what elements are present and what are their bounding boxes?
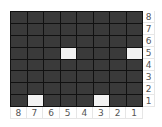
row-labels: 87654321 <box>143 11 155 107</box>
board-cell[interactable] <box>11 71 27 82</box>
board-cell[interactable] <box>11 48 27 59</box>
board-cell[interactable] <box>44 36 60 47</box>
board-cell[interactable] <box>94 71 110 82</box>
board-cell[interactable] <box>94 36 110 47</box>
board-cell[interactable] <box>110 48 126 59</box>
board-cell[interactable] <box>44 95 60 106</box>
board-cell[interactable] <box>44 24 60 35</box>
board-cell[interactable] <box>94 48 110 59</box>
board-cell[interactable] <box>44 12 60 23</box>
board-cell[interactable] <box>127 48 143 59</box>
row-label: 1 <box>143 95 155 107</box>
board-cell[interactable] <box>61 48 77 59</box>
board-cell[interactable] <box>94 60 110 71</box>
board-cell[interactable] <box>44 71 60 82</box>
column-label: 6 <box>43 107 60 119</box>
board-cell[interactable] <box>11 95 27 106</box>
board-cell[interactable] <box>77 36 93 47</box>
board-cell[interactable] <box>127 83 143 94</box>
column-label: 3 <box>93 107 110 119</box>
board-cell[interactable] <box>28 95 44 106</box>
board-cell[interactable] <box>61 60 77 71</box>
board-cell[interactable] <box>77 48 93 59</box>
game-board <box>10 11 143 107</box>
row-label: 7 <box>143 23 155 35</box>
board-cell[interactable] <box>28 83 44 94</box>
board-cell[interactable] <box>61 71 77 82</box>
board-cell[interactable] <box>94 95 110 106</box>
board-cell[interactable] <box>127 24 143 35</box>
board-cell[interactable] <box>110 12 126 23</box>
board-cell[interactable] <box>44 83 60 94</box>
board-cell[interactable] <box>28 48 44 59</box>
board-cell[interactable] <box>28 24 44 35</box>
board-cell[interactable] <box>61 24 77 35</box>
board-cell[interactable] <box>94 83 110 94</box>
row-label: 5 <box>143 47 155 59</box>
column-label: 7 <box>27 107 44 119</box>
column-labels: 87654321 <box>10 107 143 119</box>
board-cell[interactable] <box>110 83 126 94</box>
board-cell[interactable] <box>28 71 44 82</box>
board-cell[interactable] <box>77 95 93 106</box>
board-cell[interactable] <box>61 95 77 106</box>
board-cell[interactable] <box>61 36 77 47</box>
column-label: 2 <box>110 107 127 119</box>
board-cell[interactable] <box>11 36 27 47</box>
board-cell[interactable] <box>77 24 93 35</box>
row-label: 8 <box>143 11 155 23</box>
board-cell[interactable] <box>28 12 44 23</box>
column-label: 1 <box>126 107 143 119</box>
board-cell[interactable] <box>28 36 44 47</box>
board-cell[interactable] <box>11 12 27 23</box>
board-cell[interactable] <box>28 60 44 71</box>
board-cell[interactable] <box>110 60 126 71</box>
board-cell[interactable] <box>94 24 110 35</box>
column-label: 8 <box>10 107 27 119</box>
board-cell[interactable] <box>77 60 93 71</box>
board-cell[interactable] <box>77 71 93 82</box>
column-label: 4 <box>77 107 94 119</box>
board-cell[interactable] <box>61 12 77 23</box>
board-cell[interactable] <box>61 83 77 94</box>
board-cell[interactable] <box>44 48 60 59</box>
board-cell[interactable] <box>110 36 126 47</box>
board-cell[interactable] <box>127 95 143 106</box>
column-label: 5 <box>60 107 77 119</box>
board-cell[interactable] <box>11 24 27 35</box>
board-cell[interactable] <box>77 12 93 23</box>
board-cell[interactable] <box>110 24 126 35</box>
board-cell[interactable] <box>11 83 27 94</box>
board-cell[interactable] <box>127 36 143 47</box>
board-cell[interactable] <box>110 71 126 82</box>
board-cell[interactable] <box>127 12 143 23</box>
row-label: 3 <box>143 71 155 83</box>
board-cell[interactable] <box>94 12 110 23</box>
row-label: 4 <box>143 59 155 71</box>
board-cell[interactable] <box>127 60 143 71</box>
board-cell[interactable] <box>127 71 143 82</box>
row-label: 6 <box>143 35 155 47</box>
board-cell[interactable] <box>11 60 27 71</box>
board-cell[interactable] <box>77 83 93 94</box>
row-label: 2 <box>143 83 155 95</box>
board-cell[interactable] <box>44 60 60 71</box>
board-cell[interactable] <box>110 95 126 106</box>
